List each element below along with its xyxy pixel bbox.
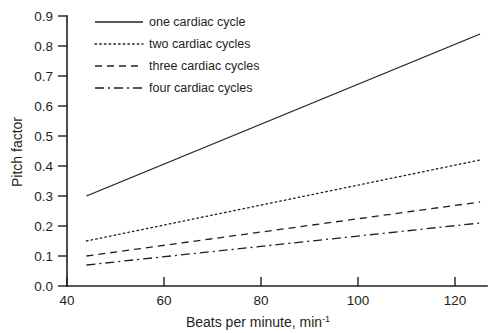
y-tick-label: 0.2 — [34, 219, 53, 234]
legend: one cardiac cycle two cardiac cycles thr… — [95, 15, 259, 95]
legend-label: four cardiac cycles — [149, 81, 253, 95]
legend-item-three-cardiac-cycles: three cardiac cycles — [95, 59, 259, 73]
y-tick-label: 0.3 — [34, 189, 53, 204]
x-axis-title-text: Beats per minute, min — [186, 314, 322, 330]
x-axis-title: Beats per minute, min-1 — [186, 314, 330, 330]
legend-item-one-cardiac-cycle: one cardiac cycle — [95, 15, 246, 29]
x-tick-label: 80 — [253, 293, 268, 308]
legend-item-four-cardiac-cycles: four cardiac cycles — [95, 81, 253, 95]
y-tick-label: 0.8 — [34, 39, 53, 54]
y-tick-label: 0.7 — [34, 69, 53, 84]
legend-label: one cardiac cycle — [149, 15, 246, 29]
x-axis-ticks — [67, 277, 455, 286]
x-axis-title-superscript: -1 — [322, 314, 330, 324]
series-line-one-cardiac-cycle — [86, 34, 480, 196]
legend-item-two-cardiac-cycles: two cardiac cycles — [95, 37, 250, 51]
x-tick-label: 100 — [347, 293, 370, 308]
y-axis-title: Pitch factor — [9, 117, 25, 187]
x-tick-label: 40 — [59, 293, 74, 308]
x-axis-tick-labels: 40 60 80 100 120 — [59, 293, 466, 308]
legend-label: three cardiac cycles — [149, 59, 259, 73]
y-tick-label: 0.1 — [34, 249, 53, 264]
y-axis-tick-labels: 0.9 0.8 0.7 0.6 0.5 0.4 0.3 0.2 0.1 0.0 — [34, 9, 53, 294]
y-tick-label: 0.6 — [34, 99, 53, 114]
y-tick-label: 0.5 — [34, 129, 53, 144]
x-tick-label: 60 — [156, 293, 171, 308]
y-tick-label: 0.4 — [34, 159, 53, 174]
series-lines — [86, 34, 480, 265]
chart-figure: 0.9 0.8 0.7 0.6 0.5 0.4 0.3 0.2 0.1 0.0 … — [0, 0, 500, 333]
pitch-factor-line-chart: 0.9 0.8 0.7 0.6 0.5 0.4 0.3 0.2 0.1 0.0 … — [0, 0, 500, 333]
y-tick-label: 0.0 — [34, 279, 53, 294]
x-tick-label: 120 — [444, 293, 467, 308]
legend-label: two cardiac cycles — [149, 37, 250, 51]
y-tick-label: 0.9 — [34, 9, 53, 24]
y-axis-ticks — [58, 16, 67, 286]
